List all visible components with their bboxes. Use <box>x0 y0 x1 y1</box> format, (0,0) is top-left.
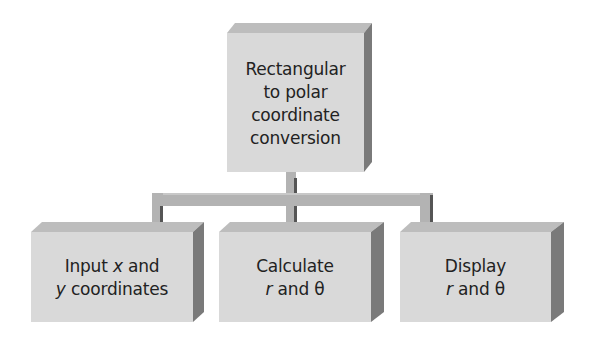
root-line-1: Rectangular <box>245 58 345 81</box>
root-line-4: conversion <box>250 127 341 150</box>
child-2-line-2: r and θ <box>266 278 325 301</box>
child-3-line-1: Display <box>445 255 506 278</box>
structure-chart: Rectangular to polar coordinate conversi… <box>0 0 596 338</box>
child-2-line-1: Calculate <box>256 255 334 278</box>
root-line-2: to polar <box>263 81 327 104</box>
child-1-line-1: Input x and <box>65 255 160 278</box>
root-line-3: coordinate <box>251 104 340 127</box>
child-1-line-2: y coordinates <box>56 278 168 301</box>
child-node-display-label: Display r and θ <box>400 236 551 320</box>
child-3-line-2: r and θ <box>446 278 505 301</box>
connector-lines <box>152 172 433 228</box>
child-node-input-label: Input x and y coordinates <box>31 236 193 320</box>
child-node-calculate-label: Calculate r and θ <box>219 236 371 320</box>
root-node-label: Rectangular to polar coordinate conversi… <box>227 40 364 168</box>
